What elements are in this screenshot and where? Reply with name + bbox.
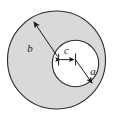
figure-container: b c a xyxy=(0,0,113,119)
label-c: c xyxy=(64,44,69,56)
label-b: b xyxy=(27,42,33,54)
label-a: a xyxy=(90,65,96,77)
eccentric-annulus-diagram: b c a xyxy=(0,0,113,119)
